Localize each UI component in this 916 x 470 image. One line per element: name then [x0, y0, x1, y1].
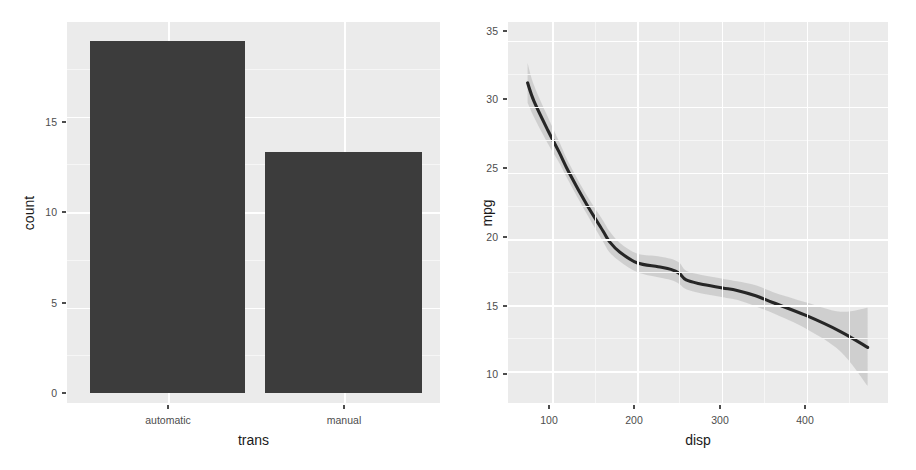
- y-axis-tick-mark: [62, 302, 66, 303]
- gridline-major-horizontal: [508, 239, 888, 241]
- gridline-major-vertical: [807, 22, 809, 403]
- x-axis-tick-label: manual: [327, 415, 361, 426]
- x-axis-tick-mark: [548, 405, 549, 409]
- gridline-minor-vertical: [849, 22, 850, 403]
- gridline-minor-vertical: [679, 22, 680, 403]
- y-axis-tick-mark: [503, 30, 507, 31]
- gridline-minor-horizontal: [508, 338, 888, 339]
- x-axis-tick-label: automatic: [145, 415, 191, 426]
- gridline-minor-vertical: [595, 22, 596, 403]
- smooth-line-chart-x-axis-title: disp: [685, 433, 711, 447]
- bar-manual: [265, 152, 422, 393]
- y-axis-tick-label: 20: [476, 232, 498, 243]
- y-axis-tick-label: 35: [476, 26, 498, 37]
- bar-chart-plot: 051015automaticmanual trans count: [0, 0, 458, 470]
- y-axis-tick-label: 5: [35, 298, 57, 309]
- gridline-minor-horizontal: [508, 272, 888, 273]
- gridline-major-horizontal: [508, 305, 888, 307]
- bar-automatic: [90, 41, 245, 393]
- gridline-major-horizontal: [508, 173, 888, 175]
- x-axis-tick-mark: [167, 405, 168, 409]
- gridline-major-horizontal: [508, 41, 888, 43]
- bar-chart-panel: [67, 22, 440, 403]
- y-axis-tick-label: 30: [476, 94, 498, 105]
- x-axis-tick-mark: [804, 405, 805, 409]
- smooth-line-chart-y-axis-title: mpg: [480, 199, 494, 226]
- x-axis-tick-label: 400: [796, 415, 814, 426]
- gridline-major-vertical: [637, 22, 639, 403]
- gridline-minor-horizontal: [508, 206, 888, 207]
- smooth-line-chart-plot: 101520253035100200300400 disp mpg: [458, 0, 916, 470]
- x-axis-tick-mark: [719, 405, 720, 409]
- x-axis-tick-label: 100: [540, 415, 558, 426]
- y-axis-tick-label: 0: [35, 388, 57, 399]
- gridline-major-horizontal: [508, 107, 888, 109]
- y-axis-tick-mark: [503, 373, 507, 374]
- y-axis-tick-mark: [503, 167, 507, 168]
- y-axis-tick-label: 10: [35, 207, 57, 218]
- gridline-minor-vertical: [764, 22, 765, 403]
- bar-chart-y-axis-title: count: [22, 195, 36, 229]
- y-axis-tick-label: 15: [476, 301, 498, 312]
- gridline-minor-horizontal: [508, 74, 888, 75]
- x-axis-tick-mark: [343, 405, 344, 409]
- gridline-major-vertical: [552, 22, 554, 403]
- smooth-line-svg: [508, 22, 888, 403]
- gridline-major-horizontal: [508, 371, 888, 373]
- gridline-major-vertical: [722, 22, 724, 403]
- y-axis-tick-mark: [62, 211, 66, 212]
- x-axis-tick-label: 200: [625, 415, 643, 426]
- y-axis-tick-label: 15: [35, 117, 57, 128]
- y-axis-tick-mark: [503, 98, 507, 99]
- gridline-minor-horizontal: [508, 140, 888, 141]
- y-axis-tick-mark: [503, 305, 507, 306]
- smooth-line-chart-panel: [508, 22, 888, 403]
- figure-canvas: 051015automaticmanual trans count 101520…: [0, 0, 916, 470]
- y-axis-tick-mark: [62, 121, 66, 122]
- bar-chart-x-axis-title: trans: [238, 433, 269, 447]
- y-axis-tick-mark: [503, 236, 507, 237]
- y-axis-tick-label: 25: [476, 163, 498, 174]
- y-axis-tick-mark: [62, 392, 66, 393]
- x-axis-tick-label: 300: [711, 415, 729, 426]
- y-axis-tick-label: 10: [476, 369, 498, 380]
- x-axis-tick-mark: [633, 405, 634, 409]
